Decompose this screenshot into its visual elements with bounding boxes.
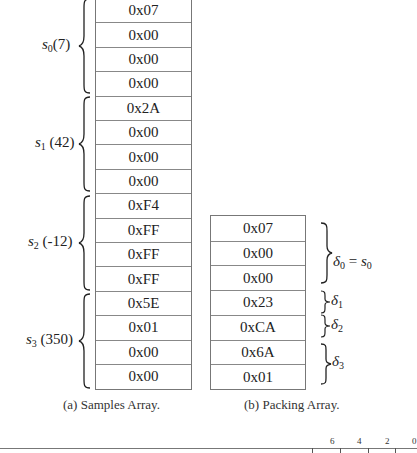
bit-ruler-tick	[368, 448, 369, 453]
samples-array-caption: (a) Samples Array.	[63, 397, 160, 413]
packing-cell: 0x00	[211, 265, 305, 290]
packing-cell: 0x6A	[211, 340, 305, 365]
delta-label-2: δ2	[331, 316, 343, 334]
samples-array: 0x07 0x00 0x00 0x00 0x2A 0x00 0x00 0x00 …	[95, 0, 192, 390]
right-brace-icon	[319, 343, 332, 385]
packing-array: 0x07 0x00 0x00 0x23 0xCA 0x6A 0x01	[210, 215, 306, 390]
right-brace-icon	[319, 314, 331, 338]
bit-ruler-tick	[312, 448, 313, 453]
bit-ruler-label: 4	[357, 436, 362, 446]
packing-cell: 0x00	[211, 241, 305, 266]
sample-label-s3: s3 (350)	[26, 331, 73, 349]
bit-ruler-label: 0	[412, 436, 417, 446]
samples-cell: 0x00	[96, 22, 191, 46]
left-brace-icon	[78, 96, 92, 192]
samples-cell: 0x01	[96, 315, 191, 339]
samples-cell: 0xFF	[96, 218, 191, 242]
samples-cell: 0x5E	[96, 291, 191, 315]
sample-label-s1: s1 (42)	[35, 134, 75, 152]
packing-cell: 0xCA	[211, 315, 305, 340]
samples-cell: 0x07	[96, 0, 191, 22]
bit-ruler-label: 6	[330, 436, 335, 446]
delta-label-3: δ3	[332, 353, 344, 371]
packing-cell: 0x07	[211, 216, 305, 241]
bit-ruler-tick	[340, 448, 341, 453]
left-brace-icon	[78, 293, 92, 389]
samples-cell: 0xFF	[96, 266, 191, 290]
samples-cell: 0x2A	[96, 96, 191, 120]
samples-cell: 0x00	[96, 169, 191, 193]
samples-cell: 0x00	[96, 144, 191, 168]
samples-cell: 0xF4	[96, 193, 191, 217]
sample-label-s0: s0(7)	[42, 36, 70, 54]
bit-ruler-tick	[395, 448, 396, 453]
samples-cell: 0x00	[96, 340, 191, 364]
samples-cell: 0x00	[96, 120, 191, 144]
packing-cell: 0x01	[211, 364, 305, 389]
sample-label-s2: s2 (-12)	[28, 233, 73, 251]
samples-cell: 0xFF	[96, 242, 191, 266]
packing-array-caption: (b) Packing Array.	[244, 397, 340, 413]
samples-cell: 0x00	[96, 47, 191, 71]
packing-cell: 0x23	[211, 290, 305, 315]
bit-ruler-label: 2	[385, 436, 390, 446]
right-brace-icon	[319, 222, 333, 284]
delta-label-1: δ1	[331, 292, 343, 310]
samples-cell: 0x00	[96, 364, 191, 388]
delta-label-0: δ0 = s0	[333, 253, 372, 271]
left-brace-icon	[78, 195, 92, 291]
samples-cell: 0x00	[96, 71, 191, 95]
bit-ruler-line	[0, 448, 417, 449]
left-brace-icon	[78, 0, 92, 94]
right-brace-icon	[319, 290, 331, 314]
